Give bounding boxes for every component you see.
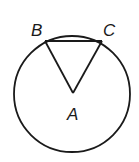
geometry-diagram: B C A — [0, 0, 139, 162]
circle-a — [14, 36, 130, 152]
label-a: A — [66, 105, 78, 124]
radius-ac — [73, 41, 102, 93]
label-b: B — [31, 21, 42, 40]
radius-ab — [45, 41, 73, 93]
label-c: C — [103, 21, 116, 40]
